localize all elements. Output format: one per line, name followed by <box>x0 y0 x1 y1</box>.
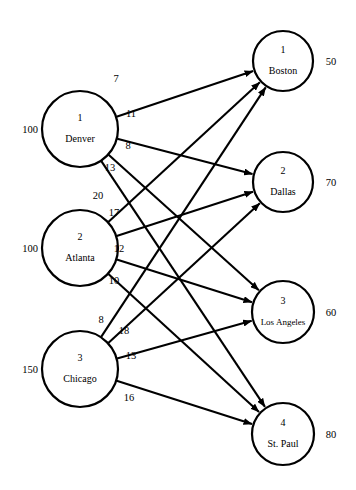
supply-node-atlanta[interactable] <box>42 210 118 286</box>
edge-cost-label: 18 <box>119 325 130 336</box>
demand-node-index: 4 <box>281 417 286 428</box>
edge-chicago-to-dallas <box>108 203 260 343</box>
supply-node-name: Chicago <box>63 373 96 384</box>
demand-value-dallas: 70 <box>326 177 337 188</box>
demand-value-stpaul: 80 <box>326 429 337 440</box>
supply-value-chicago: 150 <box>22 364 38 375</box>
demand-node-index: 3 <box>281 295 286 306</box>
supply-value-denver: 100 <box>22 124 38 135</box>
supply-node-name: Atlanta <box>65 252 95 263</box>
transportation-network-diagram: 7118132017121081813161Denver1002Atlanta1… <box>0 0 356 490</box>
edge-denver-to-boston <box>117 71 254 117</box>
edge-cost-label: 12 <box>114 243 125 254</box>
edge-atlanta-to-boston <box>108 82 260 222</box>
edge-cost-label: 10 <box>109 275 120 286</box>
supply-node-index: 3 <box>78 352 83 363</box>
edge-cost-label: 13 <box>105 162 116 173</box>
supply-node-index: 2 <box>78 231 83 242</box>
edge-cost-label: 17 <box>109 207 120 218</box>
supply-node-index: 1 <box>78 112 83 123</box>
edge-chicago-to-losangeles <box>117 321 252 359</box>
edge-cost-label: 7 <box>113 73 118 84</box>
demand-node-index: 1 <box>281 44 286 55</box>
network-graph: 7118132017121081813161Denver1002Atlanta1… <box>0 0 356 490</box>
edges-layer <box>101 71 265 424</box>
demand-node-dallas[interactable] <box>253 152 313 212</box>
edge-denver-to-stpaul <box>101 161 265 407</box>
demand-value-boston: 50 <box>326 56 337 67</box>
demand-node-stpaul[interactable] <box>252 403 314 465</box>
demand-node-name: St. Paul <box>267 438 298 449</box>
demand-node-name: Dallas <box>270 186 296 197</box>
demand-node-name: Boston <box>269 65 297 76</box>
supply-node-denver[interactable] <box>42 91 118 167</box>
edge-cost-label: 20 <box>93 190 104 201</box>
supply-node-chicago[interactable] <box>42 331 118 407</box>
demand-node-index: 2 <box>281 165 286 176</box>
edge-denver-to-losangeles <box>109 155 259 290</box>
edge-cost-label: 16 <box>124 392 135 403</box>
edge-denver-to-dallas <box>117 139 252 174</box>
edge-cost-label: 11 <box>126 108 136 119</box>
demand-node-losangeles[interactable] <box>252 281 314 343</box>
supply-value-atlanta: 100 <box>22 243 38 254</box>
supply-node-name: Denver <box>65 133 95 144</box>
demand-value-losangeles: 60 <box>326 307 337 318</box>
edge-cost-label: 8 <box>98 314 103 325</box>
demand-node-boston[interactable] <box>253 31 313 91</box>
edge-cost-label: 8 <box>125 140 130 151</box>
demand-node-name: Los Angeles <box>261 317 306 327</box>
edge-cost-label: 13 <box>126 350 137 361</box>
